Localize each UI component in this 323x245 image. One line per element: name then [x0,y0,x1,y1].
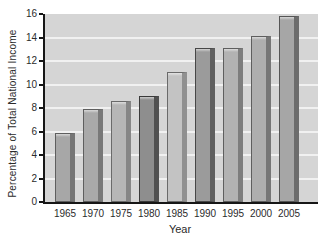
bar-top-highlight [280,17,294,20]
bar-top-highlight [252,37,266,40]
bar [111,101,131,202]
bar [223,48,243,202]
bar-chart-figure: Percentage of Total National Income 0246… [0,0,323,245]
y-tick-label: 6 [11,126,37,138]
y-tick-label: 12 [11,55,37,67]
y-tick-mark [39,60,43,62]
gridline [45,37,318,39]
y-tick-mark [39,107,43,109]
y-tick-mark [39,201,43,203]
y-tick-label: 8 [11,102,37,114]
y-tick-label: 16 [11,8,37,20]
bar [55,133,75,202]
bar-top-highlight [112,102,126,105]
y-tick-mark [39,13,43,15]
bar [251,36,271,202]
bar [167,72,187,202]
bar [195,48,215,202]
y-tick-mark [39,131,43,133]
y-tick-label: 4 [11,149,37,161]
bar [139,96,159,202]
y-tick-label: 0 [11,196,37,208]
bar-top-highlight [196,49,210,52]
bar [279,16,299,202]
y-tick-mark [39,178,43,180]
bar-top-highlight [56,134,70,137]
y-tick-mark [39,154,43,156]
gridline [45,60,318,62]
x-tick-label: 2005 [271,208,307,219]
y-tick-label: 10 [11,79,37,91]
bar-top-highlight [140,97,154,100]
y-tick-label: 2 [11,173,37,185]
x-axis-title: Year [150,223,210,235]
y-tick-mark [39,37,43,39]
plot-area: 0246810121416196519701975198019851990199… [43,14,318,204]
bar [83,109,103,202]
bar-top-highlight [84,110,98,113]
bar-top-highlight [168,73,182,76]
y-tick-mark [39,84,43,86]
bar-top-highlight [224,49,238,52]
y-tick-label: 14 [11,32,37,44]
